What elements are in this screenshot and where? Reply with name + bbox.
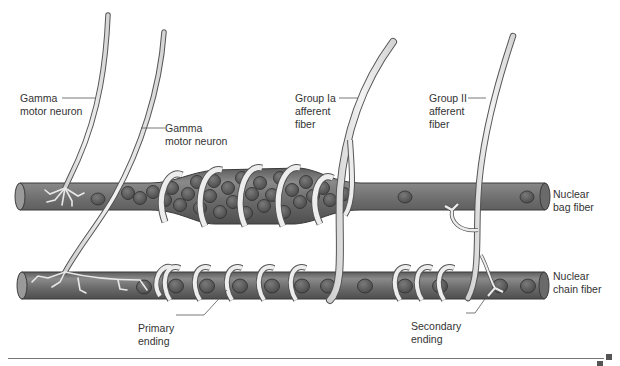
muscle-spindle-diagram bbox=[0, 0, 620, 366]
footer-corner-mark bbox=[606, 354, 612, 360]
label-gamma-motor-neuron-1: Gamma motor neuron bbox=[20, 92, 82, 118]
label-gamma-motor-neuron-2: Gamma motor neuron bbox=[165, 122, 227, 148]
group-ia-afferent-fiber bbox=[330, 42, 393, 300]
label-secondary-ending: Secondary ending bbox=[411, 320, 461, 346]
footer-rule bbox=[8, 358, 604, 359]
label-nuclear-bag-fiber: Nuclear bag fiber bbox=[553, 188, 594, 214]
gamma-motor-neuron-2 bbox=[32, 32, 164, 293]
label-nuclear-chain-fiber: Nuclear chain fiber bbox=[553, 270, 601, 296]
footer-corner-mark bbox=[597, 361, 603, 366]
group-ii-afferent-fiber bbox=[445, 36, 513, 298]
label-group-ia-afferent-fiber: Group Ia afferent fiber bbox=[295, 92, 336, 131]
label-primary-ending: Primary ending bbox=[138, 322, 174, 348]
label-group-ii-afferent-fiber: Group II afferent fiber bbox=[429, 92, 467, 131]
